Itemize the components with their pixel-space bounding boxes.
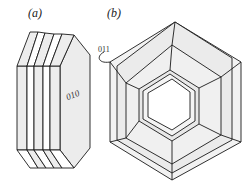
- plate-3-front: [34, 66, 43, 150]
- panel-b-hexagon: [99, 22, 241, 180]
- diagram-canvas: [0, 0, 252, 190]
- face-label-011: 011: [98, 45, 110, 54]
- plate-1-front: [17, 66, 27, 150]
- plate-2-front: [27, 66, 34, 150]
- plate-5-front: [50, 66, 60, 150]
- plate-4-front: [43, 66, 50, 150]
- panel-a-plates: [17, 32, 90, 168]
